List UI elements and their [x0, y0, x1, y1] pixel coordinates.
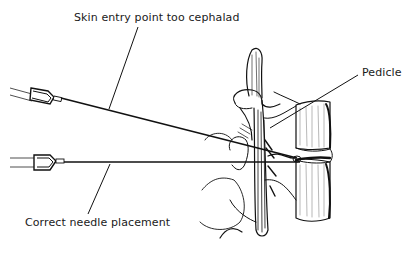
leader-pedicle — [270, 75, 358, 128]
vertebra-illustration — [200, 48, 332, 238]
label-pedicle: Pedicle — [362, 66, 402, 79]
label-correct-placement: Correct needle placement — [25, 216, 170, 229]
leader-correct — [88, 164, 110, 214]
leader-too-cephalad — [109, 27, 138, 109]
correct-needle — [10, 155, 300, 170]
label-too-cephalad: Skin entry point too cephalad — [74, 11, 239, 24]
